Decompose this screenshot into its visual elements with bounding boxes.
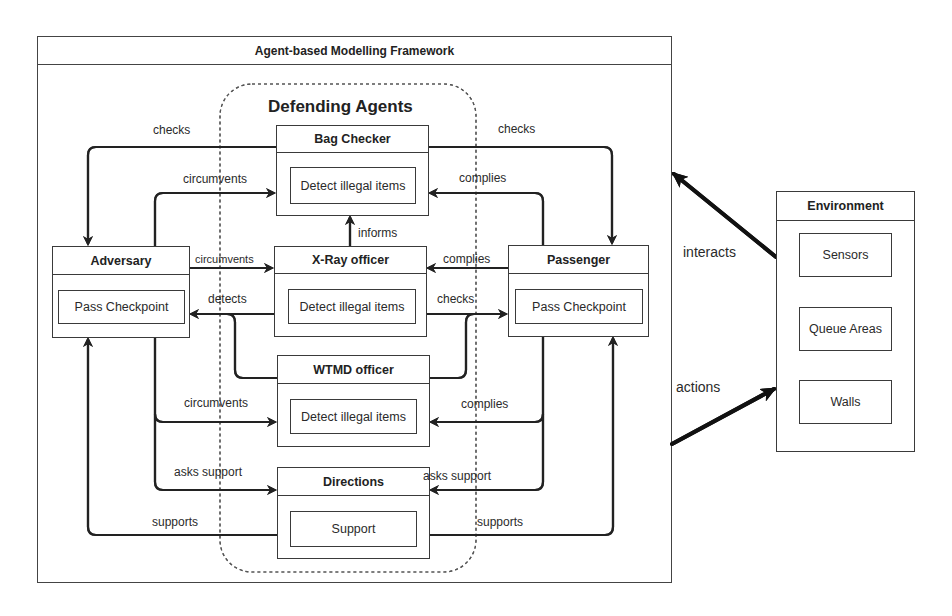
agent-behavior: Pass Checkpoint (58, 290, 185, 324)
edge-actions (672, 389, 774, 444)
agent-behavior: Pass Checkpoint (515, 289, 643, 324)
defending-agents-title: Defending Agents (268, 97, 413, 117)
label-supports-left: supports (152, 516, 198, 528)
label-checks-right: checks (498, 123, 535, 135)
environment-title: Environment (777, 192, 914, 221)
framework-title: Agent-based Modelling Framework (38, 37, 671, 65)
agent-behavior: Detect illegal items (288, 289, 416, 324)
agent-adversary[interactable]: Adversary Pass Checkpoint (52, 246, 190, 338)
label-complies-wtmd: complies (461, 398, 508, 410)
agent-behavior: Detect illegal items (290, 399, 417, 434)
environment-item-sensors: Sensors (799, 233, 892, 277)
label-checks-xray-passenger: checks (437, 293, 474, 305)
agent-name: X-Ray officer (275, 247, 426, 274)
label-circumvents-bag: circumvents (183, 173, 247, 185)
agent-name: WTMD officer (278, 356, 429, 384)
agent-xray-officer[interactable]: X-Ray officer Detect illegal items (274, 246, 427, 337)
label-asks-support-right: asks support (423, 470, 491, 482)
agent-passenger[interactable]: Passenger Pass Checkpoint (508, 245, 649, 337)
environment-box[interactable]: Environment Sensors Queue Areas Walls (776, 191, 915, 452)
agent-name: Directions (278, 468, 429, 496)
agent-name: Adversary (53, 247, 189, 275)
label-detects: detects (208, 293, 247, 305)
label-complies-xray: complies (443, 253, 490, 265)
agent-wtmd-officer[interactable]: WTMD officer Detect illegal items (277, 355, 430, 447)
label-interacts: interacts (683, 245, 736, 259)
agent-bag-checker[interactable]: Bag Checker Detect illegal items (276, 125, 429, 216)
label-circumvents-xray: circumvents (195, 254, 254, 265)
agent-behavior: Detect illegal items (290, 167, 416, 204)
agent-name: Bag Checker (277, 126, 428, 153)
label-checks-left: checks (153, 124, 190, 136)
label-complies-bag: complies (459, 172, 506, 184)
label-asks-support-left: asks support (174, 466, 242, 478)
agent-directions[interactable]: Directions Support (277, 467, 430, 559)
label-supports-right: supports (477, 516, 523, 528)
agent-name: Passenger (509, 246, 648, 274)
agent-behavior: Support (290, 511, 417, 547)
environment-item-walls: Walls (799, 380, 892, 424)
environment-item-queue-areas: Queue Areas (799, 307, 892, 351)
label-informs: informs (358, 227, 397, 239)
label-circumvents-wtmd: circumvents (184, 397, 248, 409)
label-actions: actions (676, 380, 720, 394)
